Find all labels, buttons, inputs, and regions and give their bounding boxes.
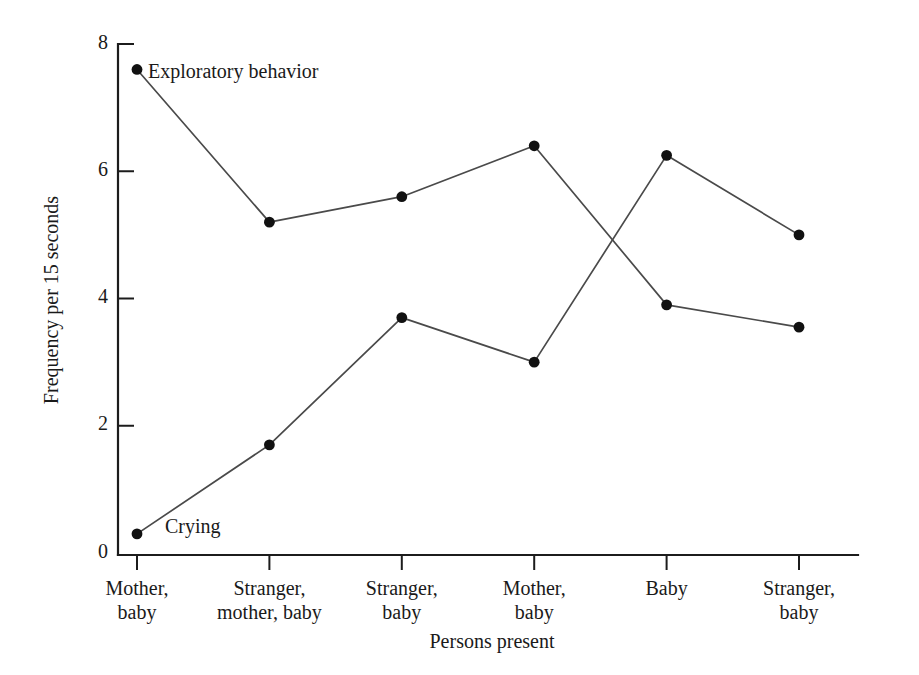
chart-container: 02468 Frequency per 15 seconds Mother,ba…: [0, 0, 919, 675]
y-axis-ticks: [118, 44, 134, 426]
series-line: [137, 155, 799, 534]
data-point: [132, 64, 143, 75]
y-axis-tick-labels: 02468: [98, 31, 108, 562]
data-point: [794, 322, 805, 333]
series-crying: [132, 150, 805, 539]
data-point: [661, 299, 672, 310]
data-point: [264, 217, 275, 228]
x-tick-label: Baby: [645, 577, 687, 600]
y-tick-label: 6: [98, 158, 108, 180]
series-label: Exploratory behavior: [148, 60, 319, 83]
data-point: [529, 140, 540, 151]
data-point: [661, 150, 672, 161]
x-axis-tick-labels: Mother,babyStranger,mother, babyStranger…: [105, 577, 835, 624]
y-tick-label: 0: [98, 540, 108, 562]
x-tick-label: Stranger,baby: [366, 577, 438, 624]
x-axis-ticks: [137, 555, 799, 570]
series-annotations: Exploratory behaviorCrying: [148, 60, 319, 538]
y-tick-label: 2: [98, 412, 108, 434]
line-chart: 02468 Frequency per 15 seconds Mother,ba…: [0, 0, 919, 675]
data-point: [794, 229, 805, 240]
data-point: [132, 529, 143, 540]
data-point: [396, 191, 407, 202]
x-axis-title: Persons present: [430, 630, 555, 653]
y-axis-title: Frequency per 15 seconds: [40, 196, 63, 404]
x-tick-label: Stranger,baby: [763, 577, 835, 624]
series-layer: [132, 64, 805, 539]
data-point: [529, 357, 540, 368]
series-line: [137, 69, 799, 327]
data-point: [396, 312, 407, 323]
x-tick-label: Stranger,mother, baby: [217, 577, 322, 624]
x-axis: Mother,babyStranger,mother, babyStranger…: [105, 555, 858, 653]
data-point: [264, 439, 275, 450]
x-tick-label: Mother,baby: [105, 577, 168, 624]
y-axis: 02468 Frequency per 15 seconds: [40, 31, 134, 562]
x-tick-label: Mother,baby: [503, 577, 566, 624]
series-label: Crying: [165, 515, 221, 538]
y-tick-label: 4: [98, 285, 108, 307]
series-exploratory-behavior: [132, 64, 805, 332]
y-tick-label: 8: [98, 31, 108, 53]
